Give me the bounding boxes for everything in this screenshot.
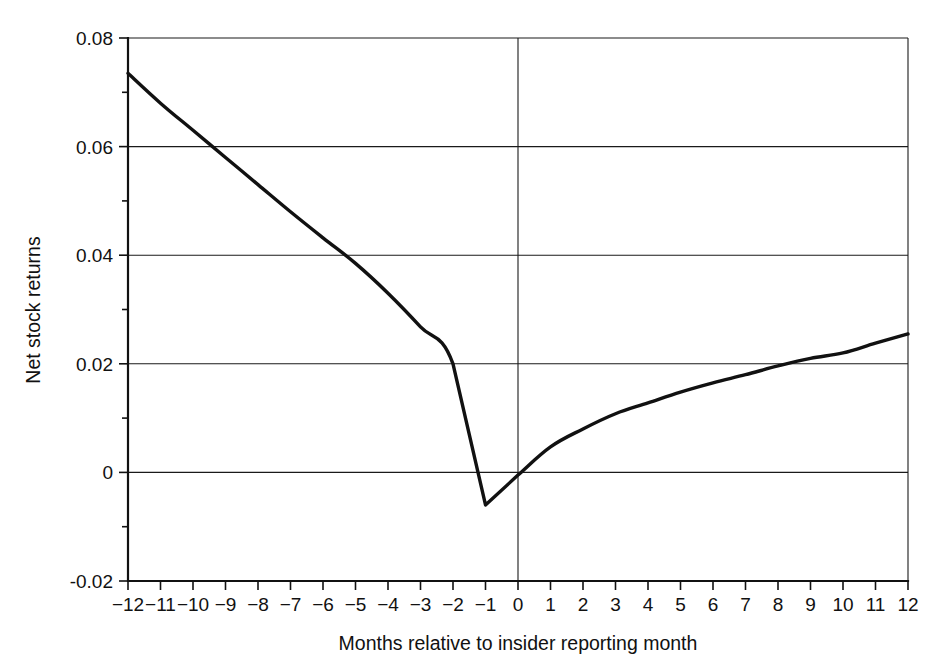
x-tick-label: 9 [805,594,816,615]
x-tick-label: 1 [545,594,556,615]
y-tick-label: 0.02 [76,354,113,375]
x-tick-label: 4 [643,594,654,615]
x-axis-tick-labels: −12−11−10−9−8−7−6−5−4−3−2−10123456789101… [112,594,919,615]
x-tick-label: −1 [475,594,497,615]
x-tick-label: 2 [578,594,589,615]
net-stock-returns-line-chart: 0.080.060.040.020-0.02 −12−11−10−9−8−7−6… [0,0,938,668]
x-tick-label: −5 [345,594,367,615]
x-tick-label: −12 [112,594,144,615]
y-axis-title: Net stock returns [22,236,44,384]
x-axis-title: Months relative to insider reporting mon… [339,632,698,654]
y-tick-label: 0.04 [76,245,113,266]
x-tick-label: −9 [215,594,237,615]
y-axis-ticks [119,38,128,581]
x-tick-label: −2 [442,594,464,615]
x-tick-label: 12 [897,594,918,615]
y-tick-label: 0 [102,462,113,483]
x-tick-label: 7 [740,594,751,615]
x-tick-label: 5 [675,594,686,615]
x-tick-label: −6 [312,594,334,615]
chart-figure: 0.080.060.040.020-0.02 −12−11−10−9−8−7−6… [0,0,938,668]
x-tick-label: −8 [247,594,269,615]
x-tick-label: −4 [377,594,399,615]
x-tick-label: −3 [410,594,432,615]
x-tick-label: 10 [832,594,853,615]
x-tick-label: 8 [773,594,784,615]
y-axis-tick-labels: 0.080.060.040.020-0.02 [70,28,114,592]
x-tick-label: 3 [610,594,621,615]
x-tick-label: −11 [145,594,176,615]
x-tick-label: 11 [866,594,886,615]
x-axis-ticks [128,581,908,590]
x-tick-label: 6 [708,594,719,615]
x-tick-label: 0 [513,594,524,615]
y-tick-label: 0.08 [76,28,113,49]
x-tick-label: −10 [177,594,209,615]
y-tick-label: -0.02 [70,571,113,592]
x-tick-label: −7 [280,594,302,615]
y-tick-label: 0.06 [76,137,113,158]
